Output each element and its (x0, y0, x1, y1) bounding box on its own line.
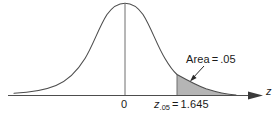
area-annotation-value: .05 (220, 53, 236, 65)
axis-arrowhead-icon (248, 92, 263, 100)
shaded-tail-region (177, 75, 233, 96)
axis-label-z: z (266, 86, 272, 97)
area-annotation-text: Area (186, 53, 210, 65)
critical-value-equals: = (170, 98, 181, 110)
area-annotation-label: Area=.05 (186, 54, 236, 65)
critical-value-label: z.05=1.645 (154, 99, 209, 112)
critical-value-subscript: .05 (160, 103, 170, 112)
critical-value-number: 1.645 (181, 98, 209, 110)
normal-curve-figure: Area=.05 0 z.05=1.645 z (0, 0, 279, 118)
area-annotation-equals: = (210, 53, 221, 65)
normal-curve-svg (0, 0, 279, 118)
mean-tick-label: 0 (121, 99, 127, 110)
